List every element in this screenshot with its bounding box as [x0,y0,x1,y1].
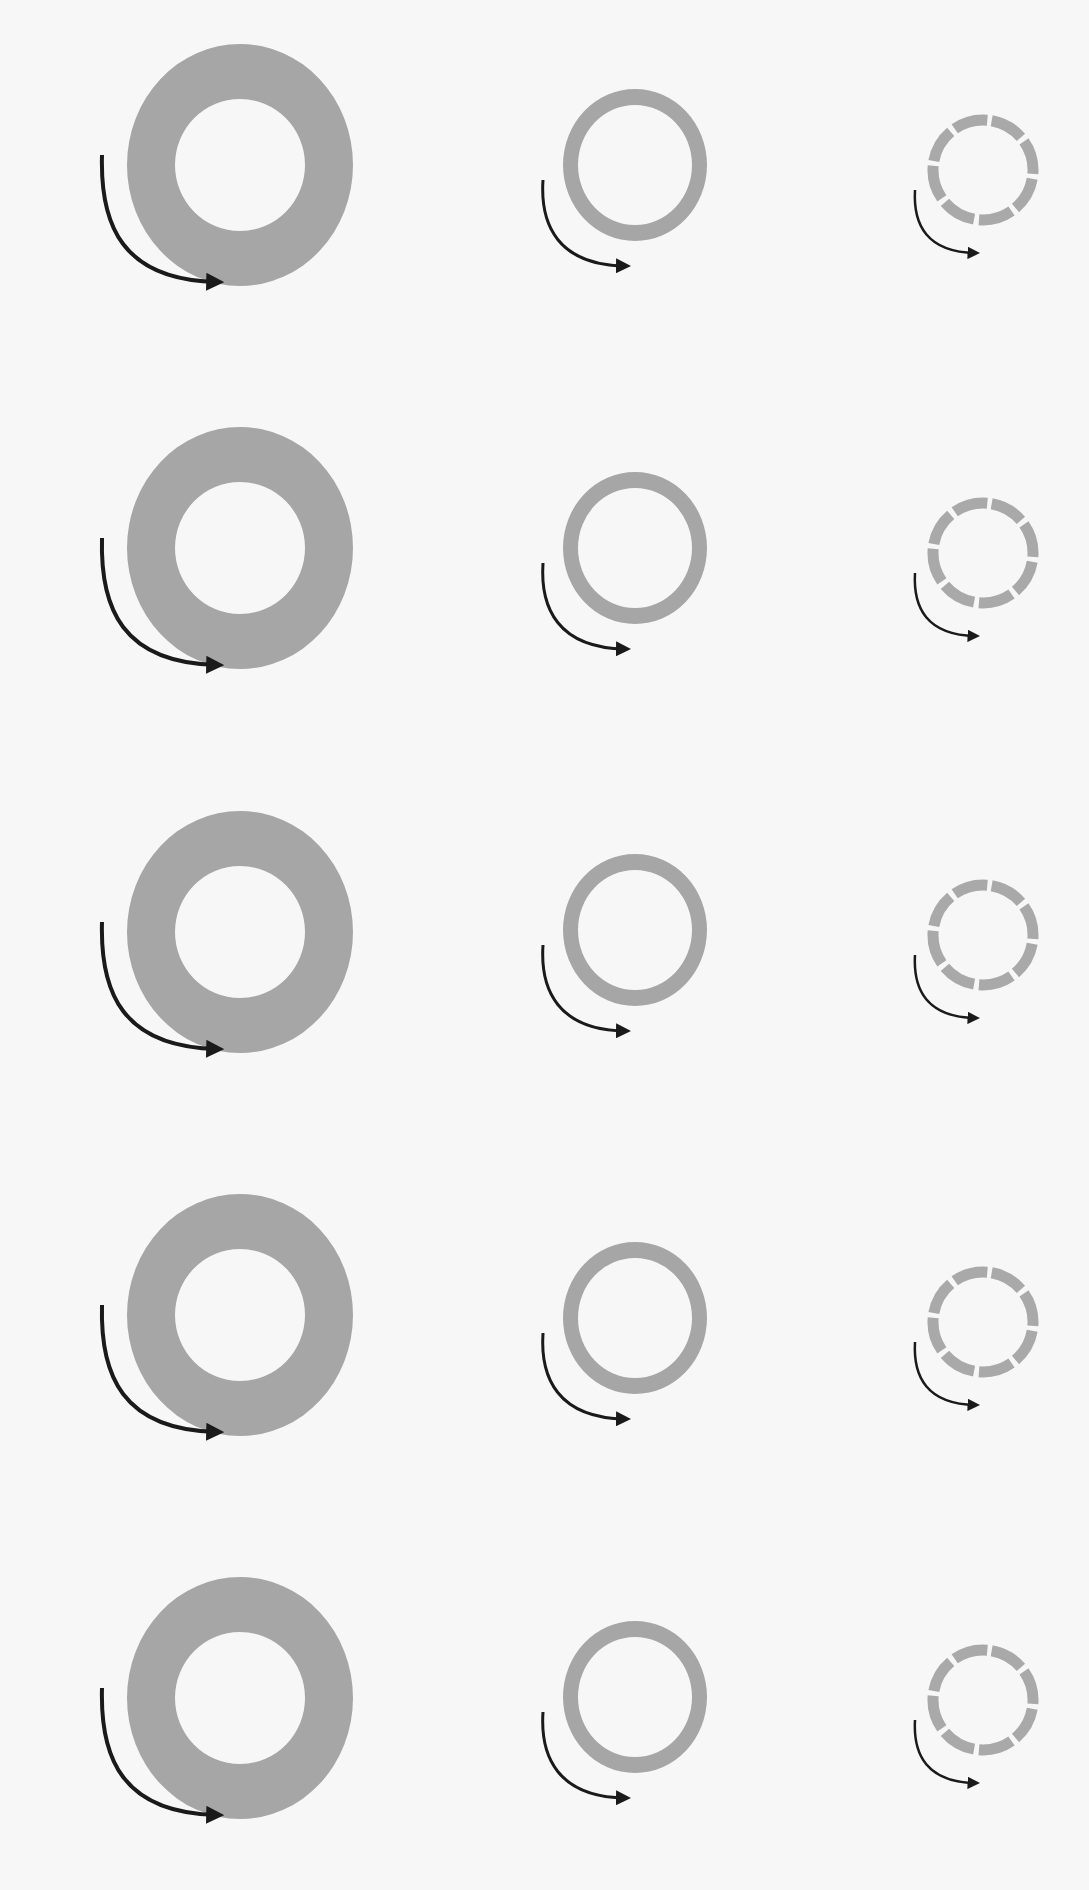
ring-row-1 [102,44,1041,286]
dashed-ring-icon [925,495,1041,611]
thick-ring-icon [127,811,353,1053]
ring-row-5 [102,1577,1041,1819]
dashed-ring-icon [925,1642,1041,1758]
dashed-ring-icon [925,877,1041,993]
thick-ring-icon [127,1577,353,1819]
ring-grid [102,44,1041,1819]
thin-ring-icon [563,1242,707,1394]
thin-ring-icon [563,89,707,241]
ring-row-4 [102,1194,1041,1436]
thick-ring-icon [127,1194,353,1436]
dashed-ring-icon [925,112,1041,228]
thick-ring-icon [127,44,353,286]
thin-ring-icon [563,472,707,624]
thin-ring-icon [563,854,707,1006]
ring-diagram [0,0,1089,1890]
dashed-ring-icon [925,1264,1041,1380]
thin-ring-icon [563,1621,707,1773]
ring-row-2 [102,427,1041,669]
ring-row-3 [102,811,1041,1053]
thick-ring-icon [127,427,353,669]
